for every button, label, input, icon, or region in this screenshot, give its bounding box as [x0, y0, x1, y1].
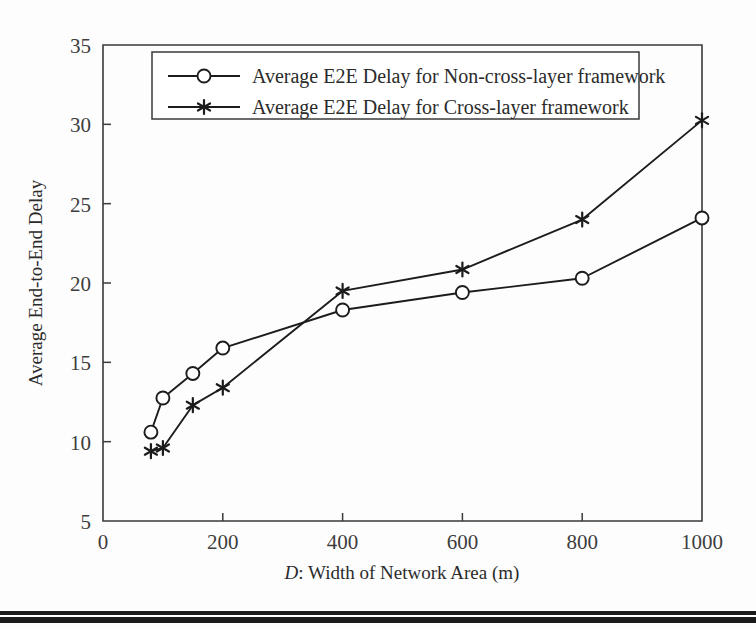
data-point-marker — [145, 444, 157, 458]
y-axis-ticks — [103, 124, 111, 441]
data-point-marker — [186, 367, 199, 380]
data-point-marker — [456, 286, 469, 299]
legend-label: Average E2E Delay for Cross-layer framew… — [252, 96, 629, 119]
page-bottom-rule-thick — [0, 617, 756, 623]
y-tick-label: 15 — [70, 351, 91, 375]
series-layer — [144, 113, 708, 458]
data-point-marker — [696, 113, 708, 127]
data-point-marker — [144, 426, 157, 439]
delay-line-chart: 02004006008001000 5101520253035 D: Width… — [0, 0, 756, 627]
series-1 — [144, 211, 708, 438]
x-tick-label: 800 — [566, 530, 598, 554]
data-point-marker — [576, 272, 589, 285]
y-tick-label: 30 — [70, 113, 91, 137]
x-tick-label: 1000 — [681, 530, 723, 554]
series-line-1 — [151, 218, 702, 432]
data-point-marker — [156, 392, 169, 405]
data-point-marker — [696, 211, 709, 224]
y-tick-label: 5 — [81, 510, 92, 534]
series-line-2 — [151, 120, 702, 451]
y-tick-label: 35 — [70, 34, 91, 58]
data-point-marker — [216, 342, 229, 355]
series-2 — [145, 113, 708, 458]
data-point-marker — [336, 303, 349, 316]
page-bottom-rule-thin — [0, 611, 756, 615]
x-axis-title: D: Width of Network Area (m) — [284, 562, 520, 584]
x-axis-title-symbol: D — [284, 562, 299, 583]
y-tick-label: 25 — [70, 193, 91, 217]
legend-marker-circle — [198, 70, 211, 83]
x-axis-ticks — [223, 513, 582, 521]
data-point-marker — [576, 213, 588, 227]
legend-label: Average E2E Delay for Non-cross-layer fr… — [252, 65, 665, 88]
x-tick-label: 200 — [207, 530, 239, 554]
y-tick-label: 20 — [70, 272, 91, 296]
data-point-marker — [217, 381, 229, 395]
chart-legend[interactable]: Average E2E Delay for Non-cross-layer fr… — [152, 52, 665, 119]
figure-canvas: 02004006008001000 5101520253035 D: Width… — [0, 0, 756, 627]
x-axis-tick-labels: 02004006008001000 — [98, 530, 723, 554]
y-axis-title: Average End-to-End Delay — [25, 179, 46, 386]
x-tick-label: 400 — [327, 530, 359, 554]
x-tick-label: 600 — [447, 530, 479, 554]
y-tick-label: 10 — [70, 431, 91, 455]
x-axis-title-text: : Width of Network Area (m) — [298, 562, 519, 584]
x-tick-label: 0 — [98, 530, 109, 554]
y-axis-tick-labels: 5101520253035 — [70, 34, 91, 534]
